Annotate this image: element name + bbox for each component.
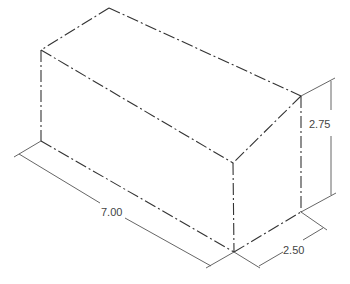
dimension-line-length-b <box>125 218 211 266</box>
dimension-line-width-b <box>303 228 323 240</box>
edge-top-back-left <box>41 8 109 50</box>
edge-bottom-front <box>41 141 234 252</box>
dimension-line-length-a <box>19 154 100 203</box>
dimension-label-height: 2.75 <box>309 118 330 130</box>
box-edges <box>41 8 301 252</box>
dimension-label-width: 2.50 <box>283 244 304 256</box>
edge-top-right <box>233 96 301 163</box>
dimension-length: 7.00 <box>14 141 234 268</box>
dimension-height: 2.75 <box>301 78 336 212</box>
extension-line-left <box>14 141 41 157</box>
isometric-box-drawing: 7.00 2.50 2.75 <box>0 0 350 284</box>
extension-line-bottom-right <box>301 193 336 212</box>
extension-line-top-right <box>301 78 335 96</box>
dimension-width: 2.50 <box>234 212 327 268</box>
edge-top-front <box>41 50 233 163</box>
edge-front-vertical <box>233 163 234 252</box>
extension-line-front-right <box>234 252 260 268</box>
dimension-line-width-a <box>259 252 283 266</box>
dimension-label-length: 7.00 <box>101 206 122 218</box>
edge-top-back-right <box>109 8 301 96</box>
drawing-canvas: 7.00 2.50 2.75 <box>0 0 350 284</box>
extension-line-right <box>301 212 327 230</box>
